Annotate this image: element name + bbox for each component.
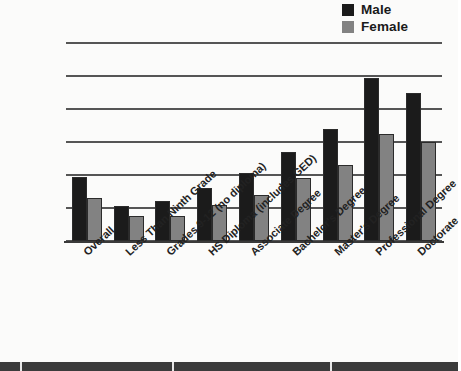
bar-male xyxy=(72,177,87,241)
legend-swatch-male-icon xyxy=(342,4,354,16)
chart-legend: Male Female xyxy=(342,2,454,36)
bar-female xyxy=(379,134,394,241)
legend-label-female: Female xyxy=(361,20,408,33)
legend-item-female: Female xyxy=(342,19,454,34)
footer-strip xyxy=(0,362,458,371)
footer-divider xyxy=(172,362,174,371)
bar-male xyxy=(114,206,129,241)
legend-label-male: Male xyxy=(361,3,391,16)
x-axis-labels: OverallLess Than Ninth GradeGrades 9-12 … xyxy=(0,243,458,353)
bar-group xyxy=(66,43,108,241)
legend-swatch-female-icon xyxy=(342,21,354,33)
bar-group xyxy=(108,43,150,241)
legend-item-male: Male xyxy=(342,2,454,17)
footer-divider xyxy=(330,362,332,371)
footer-divider xyxy=(20,362,22,371)
